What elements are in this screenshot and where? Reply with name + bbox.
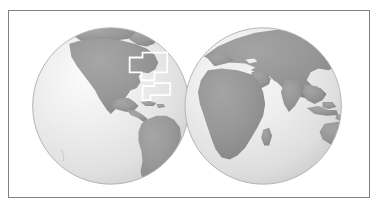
world-map xyxy=(9,11,369,197)
figure-frame: World map with two hemispheres xyxy=(8,10,370,198)
landmass-south-america xyxy=(139,116,182,181)
figure-root: World map with two hemispheres xyxy=(0,0,383,211)
globe-eastern-hemisphere xyxy=(185,28,350,197)
